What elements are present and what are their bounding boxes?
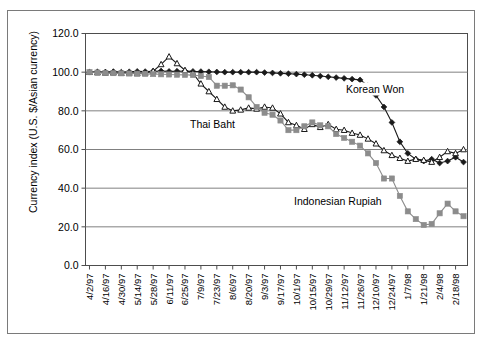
data-point-marker [135, 71, 140, 76]
chart-figure: Currency index (U.S. $/Asian currency) 0… [0, 0, 484, 343]
y-tick-label: 20.0 [58, 221, 79, 233]
data-point-marker [437, 211, 442, 216]
data-point-marker [397, 193, 402, 198]
x-tick-label: 10/29/97 [323, 274, 334, 311]
x-tick-label: 7/23/97 [211, 274, 222, 306]
data-point-marker [190, 72, 195, 77]
x-tick-label: 5/28/97 [148, 274, 159, 306]
data-point-marker [326, 124, 331, 129]
data-point-marker [214, 83, 219, 88]
data-point-marker [182, 72, 187, 77]
data-point-marker [342, 135, 347, 140]
data-point-marker [357, 143, 362, 148]
x-tick-label: 5/14/97 [132, 274, 143, 306]
y-tick-label: 40.0 [58, 182, 79, 194]
data-point-marker [445, 201, 450, 206]
data-point-marker [222, 83, 227, 88]
data-point-marker [286, 128, 291, 133]
y-tick-label: 80.0 [58, 105, 79, 117]
data-point-marker [373, 160, 378, 165]
x-tick-label: 9/17/97 [275, 274, 286, 306]
data-point-marker [453, 209, 458, 214]
x-tick-label: 10/15/97 [307, 274, 318, 311]
data-point-marker [254, 104, 259, 109]
x-tick-label: 11/26/97 [355, 274, 366, 310]
data-point-marker [174, 72, 179, 77]
data-point-marker [143, 71, 148, 76]
series-annotation-korean-won: Korean Won [346, 83, 404, 95]
series-annotation-thai-baht: Thai Baht [190, 118, 235, 130]
y-tick-label: 0.0 [64, 259, 79, 271]
data-point-marker [302, 124, 307, 129]
chart-canvas: 0.020.040.060.080.0100.0120.04/2/974/16/… [0, 0, 484, 343]
x-tick-label: 1/21/98 [418, 274, 429, 306]
data-point-marker [421, 222, 426, 227]
x-tick-label: 9/3/97 [259, 274, 270, 300]
data-point-marker [334, 131, 339, 136]
x-tick-label: 4/30/97 [116, 274, 127, 306]
x-tick-label: 8/6/97 [227, 274, 238, 300]
data-point-marker [87, 70, 92, 75]
x-tick-label: 6/25/97 [179, 274, 190, 306]
series-annotation-indonesian-rupiah: Indonesian Rupiah [294, 195, 382, 207]
data-point-marker [294, 128, 299, 133]
data-point-marker [198, 73, 203, 78]
data-point-marker [270, 112, 275, 117]
data-point-marker [206, 74, 211, 79]
data-point-marker [119, 71, 124, 76]
data-point-marker [111, 71, 116, 76]
x-tick-label: 12/24/97 [386, 274, 397, 311]
data-point-marker [159, 72, 164, 77]
data-point-marker [429, 221, 434, 226]
x-tick-label: 12/10/97 [370, 274, 381, 311]
x-tick-label: 8/20/97 [243, 274, 254, 306]
x-tick-label: 2/18/98 [450, 274, 461, 306]
x-tick-label: 10/1/97 [291, 274, 302, 306]
data-point-marker [262, 110, 267, 115]
x-tick-label: 1/7/98 [402, 274, 413, 300]
data-point-marker [151, 72, 156, 77]
data-point-marker [405, 209, 410, 214]
data-point-marker [95, 70, 100, 75]
data-point-marker [246, 95, 251, 100]
data-point-marker [365, 151, 370, 156]
x-tick-label: 7/9/97 [195, 274, 206, 300]
x-tick-label: 11/12/97 [339, 274, 350, 310]
data-point-marker [389, 176, 394, 181]
data-point-marker [278, 118, 283, 123]
y-tick-label: 60.0 [58, 143, 79, 155]
data-point-marker [166, 72, 171, 77]
x-tick-label: 6/11/97 [164, 274, 175, 305]
data-point-marker [461, 214, 466, 219]
data-point-marker [238, 87, 243, 92]
data-point-marker [310, 120, 315, 125]
data-point-marker [413, 217, 418, 222]
y-tick-label: 100.0 [52, 66, 78, 78]
data-point-marker [127, 71, 132, 76]
data-point-marker [350, 139, 355, 144]
data-point-marker [103, 70, 108, 75]
y-tick-label: 120.0 [52, 27, 78, 39]
x-tick-label: 4/16/97 [100, 274, 111, 306]
data-point-marker [381, 176, 386, 181]
data-point-marker [230, 83, 235, 88]
x-tick-label: 2/4/98 [434, 274, 445, 300]
data-point-marker [318, 123, 323, 128]
x-tick-label: 4/2/97 [84, 274, 95, 300]
